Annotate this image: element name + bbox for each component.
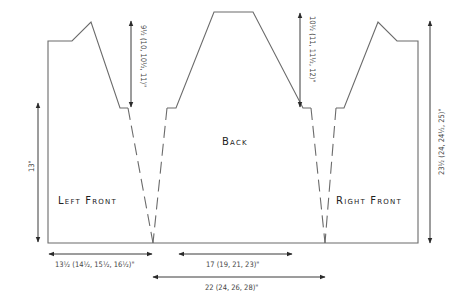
front-armhole-dimension: 9½ (10, 10½, 11)" bbox=[139, 25, 148, 87]
right-front-outline bbox=[325, 22, 418, 243]
left-front-outline bbox=[48, 22, 153, 243]
back-lower-width-dimension: 22 (24, 26, 28)" bbox=[205, 283, 258, 292]
right-front-dashed-edge bbox=[325, 108, 336, 243]
back-width-dimension: 17 (19, 21, 23)" bbox=[206, 260, 259, 269]
left-front-label: Left Front bbox=[58, 195, 117, 206]
back-label: Back bbox=[222, 136, 248, 147]
left-front-dashed-edge bbox=[128, 108, 153, 243]
back-right-dashed-edge bbox=[311, 108, 325, 243]
garment-schematic bbox=[0, 0, 465, 304]
back-armhole-dimension: 10½ (11, 11½, 12)" bbox=[308, 16, 317, 83]
total-length-dimension: 23½ (24, 24½, 25)" bbox=[437, 109, 446, 176]
right-front-label: Right Front bbox=[336, 195, 402, 206]
back-left-dashed-edge bbox=[153, 108, 167, 243]
side-length-dimension: 13" bbox=[27, 160, 36, 172]
front-width-dimension: 13½ (14½, 15½, 16½)" bbox=[55, 260, 135, 269]
back-outline bbox=[167, 12, 311, 108]
